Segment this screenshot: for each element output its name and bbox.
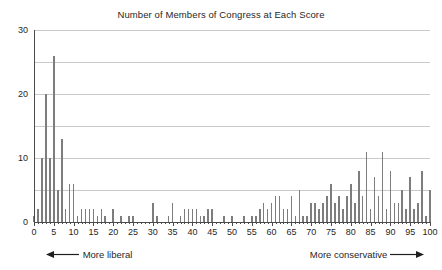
- x-tick-minor: [129, 222, 130, 224]
- x-tick-minor: [70, 222, 71, 224]
- x-tick-major: [93, 222, 94, 226]
- x-tick-minor: [196, 222, 197, 224]
- x-tick-minor: [101, 222, 102, 224]
- x-tick-minor: [204, 222, 205, 224]
- x-tick-minor: [184, 222, 185, 224]
- x-tick-major: [331, 222, 332, 226]
- gridline: [34, 158, 430, 159]
- bar: [211, 209, 213, 222]
- x-tick-minor: [62, 222, 63, 224]
- bar: [172, 203, 174, 222]
- bar: [275, 196, 277, 222]
- bar: [37, 209, 39, 222]
- bar: [89, 209, 91, 222]
- bar: [358, 171, 360, 222]
- x-tick-minor: [181, 222, 182, 224]
- x-tick-major: [173, 222, 174, 226]
- x-tick-minor: [339, 222, 340, 224]
- y-tick-label: 20: [0, 90, 28, 99]
- x-tick-minor: [240, 222, 241, 224]
- bar: [196, 209, 198, 222]
- x-tick-minor: [363, 222, 364, 224]
- x-tick-major: [410, 222, 411, 226]
- x-tick-minor: [200, 222, 201, 224]
- y-tick-label: 10: [0, 154, 28, 163]
- x-tick-minor: [327, 222, 328, 224]
- x-tick-major: [291, 222, 292, 226]
- x-tick-major: [133, 222, 134, 226]
- bar: [192, 209, 194, 222]
- more-liberal-annotation: More liberal: [46, 249, 132, 260]
- gridline: [34, 94, 430, 95]
- x-tick-minor: [307, 222, 308, 224]
- x-tick-minor: [359, 222, 360, 224]
- x-tick-minor: [323, 222, 324, 224]
- x-tick-minor: [46, 222, 47, 224]
- x-tick-minor: [216, 222, 217, 224]
- bar: [390, 171, 392, 222]
- chart-title: Number of Members of Congress at Each Sc…: [0, 9, 442, 20]
- bar: [401, 190, 403, 222]
- x-tick-minor: [335, 222, 336, 224]
- x-tick-major: [430, 222, 431, 226]
- x-tick-minor: [379, 222, 380, 224]
- bar: [362, 196, 364, 222]
- gridline: [34, 190, 430, 191]
- x-tick-minor: [426, 222, 427, 224]
- x-tick-minor: [188, 222, 189, 224]
- x-tick-minor: [78, 222, 79, 224]
- x-tick-major: [351, 222, 352, 226]
- bar: [314, 203, 316, 222]
- x-tick-major: [153, 222, 154, 226]
- bar: [322, 203, 324, 222]
- bar: [310, 203, 312, 222]
- x-tick-minor: [50, 222, 51, 224]
- gridline: [34, 30, 430, 31]
- chart-container: Number of Members of Congress at Each Sc…: [0, 0, 442, 270]
- x-tick-major: [371, 222, 372, 226]
- x-tick-minor: [315, 222, 316, 224]
- x-tick-minor: [295, 222, 296, 224]
- x-tick-minor: [382, 222, 383, 224]
- x-tick-minor: [97, 222, 98, 224]
- x-tick-minor: [414, 222, 415, 224]
- x-tick-minor: [109, 222, 110, 224]
- bar: [112, 209, 114, 222]
- x-tick-minor: [177, 222, 178, 224]
- bar: [207, 209, 209, 222]
- x-tick-major: [34, 222, 35, 226]
- x-tick-minor: [355, 222, 356, 224]
- x-tick-minor: [398, 222, 399, 224]
- y-tick-label: 0: [0, 218, 28, 227]
- bar: [93, 209, 95, 222]
- gridline: [34, 62, 430, 63]
- x-tick-minor: [125, 222, 126, 224]
- x-tick-minor: [375, 222, 376, 224]
- x-tick-minor: [121, 222, 122, 224]
- x-tick-minor: [85, 222, 86, 224]
- bar: [429, 190, 431, 222]
- bar: [421, 171, 423, 222]
- bar: [279, 196, 281, 222]
- x-tick-minor: [236, 222, 237, 224]
- bar: [342, 209, 344, 222]
- x-tick-minor: [303, 222, 304, 224]
- bar: [57, 190, 59, 222]
- x-tick-minor: [418, 222, 419, 224]
- bar: [287, 209, 289, 222]
- x-tick-minor: [244, 222, 245, 224]
- bar: [413, 209, 415, 222]
- bar: [69, 184, 71, 222]
- x-tick-minor: [145, 222, 146, 224]
- x-tick-major: [232, 222, 233, 226]
- arrow-left-icon: [46, 250, 80, 259]
- bar: [405, 209, 407, 222]
- x-tick-major: [252, 222, 253, 226]
- bar: [152, 203, 154, 222]
- x-tick-minor: [228, 222, 229, 224]
- x-tick-minor: [394, 222, 395, 224]
- x-tick-minor: [347, 222, 348, 224]
- bar: [259, 209, 261, 222]
- y-axis-line: [34, 30, 35, 223]
- more-conservative-annotation: More conservative: [310, 249, 424, 260]
